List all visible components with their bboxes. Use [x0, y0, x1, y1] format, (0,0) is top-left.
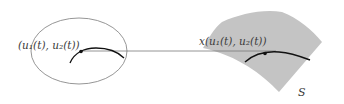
surface-point: [263, 52, 267, 56]
diagram-canvas: [0, 0, 344, 104]
surface-point-label: x(u₁(t), u₂(t)): [199, 36, 267, 47]
domain-point: [79, 50, 83, 54]
surface-patch: [203, 11, 322, 92]
surface-name-label: S: [298, 87, 306, 98]
domain-point-label: (u₁(t), u₂(t)): [18, 40, 80, 51]
